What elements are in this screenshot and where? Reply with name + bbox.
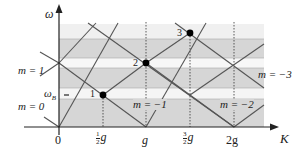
tick-two-g-text: 2g xyxy=(226,133,238,147)
x-axis-arrow-icon xyxy=(270,124,279,131)
mode-label-m-neg2: m = −2 xyxy=(220,99,254,110)
omega-b-subscript: B xyxy=(52,94,56,102)
point-3-marker xyxy=(187,30,194,37)
tick-g: g xyxy=(142,134,148,146)
point-1-label: 1 xyxy=(90,89,95,99)
frac-num: 3 xyxy=(183,131,187,138)
fraction-half: 12 xyxy=(96,131,100,146)
point-2-marker xyxy=(143,60,150,67)
tick-suffix: g xyxy=(101,130,107,144)
tick-suffix: g xyxy=(188,130,194,144)
mode-label-m1: m = 1 xyxy=(18,65,44,76)
mode-label-m-neg1: m = −1 xyxy=(133,99,167,110)
x-axis-label: K xyxy=(280,132,289,145)
omega-b-label: ωB xyxy=(44,88,56,102)
fraction-three-half: 32 xyxy=(183,131,187,146)
y-axis-label: ω xyxy=(45,8,53,20)
tick-two-g: 2g xyxy=(226,134,238,146)
point-3-label: 3 xyxy=(177,28,182,38)
tick-zero: 0 xyxy=(55,134,61,146)
point-2-label: 2 xyxy=(133,58,138,68)
mode-label-m-neg3: m = −3 xyxy=(258,69,292,80)
frac-num: 1 xyxy=(96,131,100,138)
frac-den: 2 xyxy=(96,138,100,146)
omega-b-symbol: ω xyxy=(44,87,52,99)
point-1-marker xyxy=(100,92,107,99)
y-axis-arrow-icon xyxy=(56,4,63,13)
tick-half-g: 12g xyxy=(96,131,107,146)
frac-den: 2 xyxy=(183,138,187,146)
mode-label-m0: m = 0 xyxy=(18,101,44,112)
tick-three-half-g: 32g xyxy=(183,131,194,146)
